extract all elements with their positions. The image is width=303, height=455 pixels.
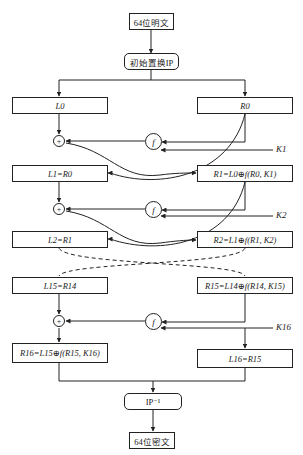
xor-node-16: +: [53, 315, 65, 327]
r1-box: R1=L0⊕f(R0, K1): [197, 165, 293, 182]
f-function-node-2: f: [145, 201, 162, 218]
r15-label: R15=L14⊕f(R14, K15): [205, 281, 285, 291]
l16-box: L16=R15: [197, 349, 293, 368]
initial-permutation-label: 初始置换IP: [130, 56, 174, 68]
key-k1-label: K1: [276, 144, 287, 154]
l16-label: L16=R15: [229, 354, 262, 364]
ciphertext-label: 64位密文: [134, 435, 170, 447]
final-permutation-label: IP⁻¹: [146, 397, 161, 407]
r0-label: R0: [240, 101, 249, 111]
l15-label: L15=R14: [44, 281, 77, 291]
l15-box: L15=R14: [12, 277, 108, 294]
key-k2-label: K2: [276, 210, 287, 220]
f-label: f: [152, 317, 155, 327]
plaintext-input-box: 64位明文: [129, 13, 174, 30]
f-label: f: [152, 137, 155, 147]
r0-box: R0: [197, 97, 293, 114]
xor-symbol: +: [57, 137, 62, 146]
xor-node-2: +: [53, 203, 65, 215]
r2-box: R2=L1⊕f(R1, K2): [197, 231, 293, 248]
l2-label: L2=R1: [48, 235, 72, 245]
xor-node-1: +: [53, 135, 65, 147]
f-label: f: [152, 205, 155, 215]
l0-label: L0: [56, 101, 65, 111]
l0-box: L0: [12, 97, 108, 114]
key-k16-label: K16: [276, 322, 291, 332]
l2-box: L2=R1: [12, 231, 108, 248]
f-function-node-1: f: [145, 133, 162, 150]
plaintext-label: 64位明文: [134, 16, 170, 28]
xor-symbol: +: [57, 317, 62, 326]
r15-box: R15=L14⊕f(R14, K15): [197, 277, 293, 294]
f-function-node-16: f: [145, 313, 162, 330]
ciphertext-output-box: 64位密文: [129, 432, 175, 449]
l1-box: L1=R0: [12, 165, 108, 182]
final-permutation-box: IP⁻¹: [124, 393, 182, 410]
l1-label: L1=R0: [48, 169, 72, 179]
r2-label: R2=L1⊕f(R1, K2): [214, 235, 277, 245]
r16-box: R16=L15⊕f(R15, K16): [12, 343, 108, 363]
initial-permutation-box: 初始置换IP: [124, 53, 179, 70]
r1-label: R1=L0⊕f(R0, K1): [214, 169, 277, 179]
r16-label: R16=L15⊕f(R15, K16): [20, 348, 100, 358]
xor-symbol: +: [57, 205, 62, 214]
